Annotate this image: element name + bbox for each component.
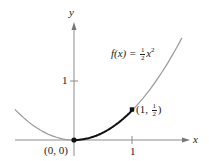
y-axis-label: y <box>69 7 74 18</box>
point-label-close: ) <box>158 103 162 115</box>
plot-area <box>0 0 209 161</box>
point-label: (1, 12) <box>136 103 161 118</box>
origin-point <box>71 137 76 142</box>
coef-num: 1 <box>141 47 145 54</box>
y-axis-arrow-icon <box>72 22 77 30</box>
coef-den: 2 <box>141 55 145 62</box>
highlighted-arc <box>74 111 132 141</box>
x-axis-arrow-icon <box>182 138 190 143</box>
frac-den: 2 <box>152 111 156 118</box>
function-name: f(x) = <box>111 47 139 59</box>
parabola-curve <box>15 38 182 140</box>
function-label: f(x) = 12x2 <box>111 47 155 62</box>
x-axis-label: x <box>193 134 198 145</box>
frac-num: 1 <box>152 103 156 110</box>
x-tick-label-1: 1 <box>130 146 136 157</box>
point-fraction: 12 <box>152 103 157 118</box>
origin-label: (0, 0) <box>44 145 68 156</box>
point-label-open: (1, <box>136 103 151 115</box>
function-exp: 2 <box>151 46 155 54</box>
point-1-half <box>130 107 134 111</box>
function-coef: 12 <box>140 47 145 62</box>
y-tick-label-1: 1 <box>62 75 68 86</box>
